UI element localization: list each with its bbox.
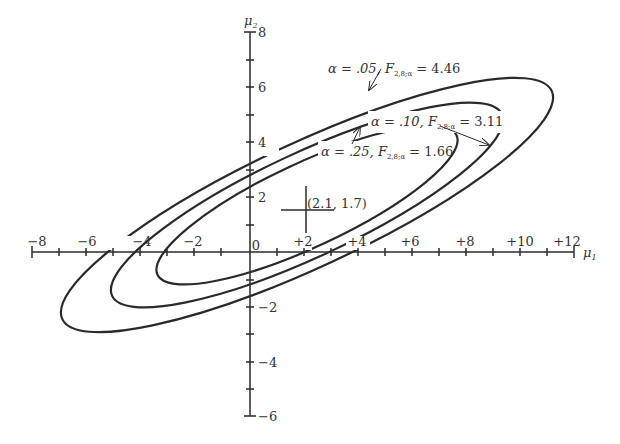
x-tick-label: +10 xyxy=(506,234,533,249)
y-tick-label: 4 xyxy=(258,135,266,150)
y-tick-label: 6 xyxy=(258,80,266,95)
x-tick-label: +6 xyxy=(400,234,419,249)
y-tick-label: 2 xyxy=(258,190,266,205)
x-tick-label: −8 xyxy=(27,234,46,249)
confidence-ellipse-diagram: −8 −6 −4 −2 0 +2 +4 +6 +8 +10 +12 8 6 4 … xyxy=(0,0,620,444)
x-tick-label: +12 xyxy=(553,234,580,249)
x-tick-label: +8 xyxy=(455,234,474,249)
x-tick-label: −6 xyxy=(77,234,96,249)
x-tick-label: +2 xyxy=(293,234,312,249)
y-tick-label: −6 xyxy=(258,409,277,424)
y-tick-label: −4 xyxy=(258,355,277,370)
y-tick-labels: 8 6 4 2 −2 −4 −6 xyxy=(258,25,277,424)
x-tick-label: −4 xyxy=(132,234,151,249)
y-axis xyxy=(244,32,256,416)
x-tick-label: 0 xyxy=(252,238,260,253)
y-tick-label: −2 xyxy=(258,300,277,315)
annotation-arrows xyxy=(352,69,489,145)
x-tick-label: −2 xyxy=(183,234,202,249)
x-tick-label: +4 xyxy=(347,234,366,249)
y-tick-label: 8 xyxy=(258,25,266,40)
x-axis-label: μ1 xyxy=(583,245,597,262)
y-axis-label: μ2 xyxy=(244,13,258,30)
center-point-label: (2.1, 1.7) xyxy=(307,196,367,211)
